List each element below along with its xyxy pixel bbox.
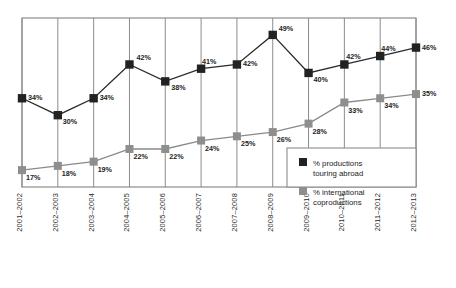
data-point-marker: [412, 90, 420, 98]
data-point-marker: [90, 158, 98, 166]
data-point-marker: [233, 60, 241, 68]
data-point-marker: [305, 120, 313, 128]
data-point-marker: [412, 43, 420, 51]
data-point-marker: [340, 99, 348, 107]
data-point-label: 44%: [381, 44, 396, 53]
x-axis-tick-label: 2006–2007: [194, 193, 203, 232]
data-point-marker: [376, 52, 384, 60]
x-axis-tick-label: 2003–2004: [87, 193, 96, 232]
data-point-marker: [197, 65, 205, 73]
data-point-label: 40%: [314, 75, 329, 84]
legend-label: touring abroad: [313, 169, 363, 178]
data-point-marker: [54, 111, 62, 119]
x-axis-tick-label: 2004–2005: [122, 193, 131, 232]
data-point-label: 34%: [100, 93, 115, 102]
x-axis-tick-label: 2008–2009: [266, 193, 275, 232]
data-point-marker: [89, 94, 97, 102]
data-point-label: 22%: [133, 152, 148, 161]
data-point-label: 26%: [277, 135, 292, 144]
x-axis-tick-label: 2011–2012: [373, 193, 382, 231]
legend-label: % productions: [313, 159, 363, 168]
legend-label: % international: [313, 188, 365, 197]
data-point-marker: [304, 69, 312, 77]
data-point-marker: [269, 31, 277, 39]
x-axis-tick-label: 2009–2010: [302, 193, 311, 232]
data-point-label: 24%: [205, 144, 220, 153]
x-axis-tick-label: 2007–2008: [230, 193, 239, 232]
data-point-marker: [376, 94, 384, 102]
data-point-label: 25%: [241, 139, 256, 148]
data-point-label: 42%: [346, 52, 361, 61]
data-point-label: 34%: [28, 93, 43, 102]
x-axis-tick-label: 2002–2003: [51, 193, 60, 232]
data-point-label: 19%: [98, 165, 113, 174]
data-point-marker: [197, 137, 205, 145]
data-point-marker: [161, 77, 169, 85]
line-chart: 34%30%34%42%38%41%42%49%40%42%44%46%17%1…: [0, 0, 456, 288]
data-point-marker: [125, 145, 133, 153]
x-axis-tick-label: 2012–2013: [409, 193, 418, 232]
data-point-label: 17%: [26, 173, 41, 182]
data-point-marker: [161, 145, 169, 153]
data-point-marker: [18, 166, 26, 174]
data-point-marker: [269, 128, 277, 136]
data-point-marker: [18, 94, 26, 102]
legend-swatch: [299, 158, 307, 166]
data-point-label: 49%: [279, 24, 294, 33]
data-point-marker: [340, 60, 348, 68]
x-axis-tick-label: 2005–2006: [158, 193, 167, 232]
data-point-label: 22%: [169, 152, 184, 161]
x-axis-tick-label: 2001–2002: [15, 193, 24, 232]
data-point-label: 34%: [384, 101, 399, 110]
data-point-marker: [125, 60, 133, 68]
legend-box: [287, 148, 416, 187]
data-point-marker: [233, 132, 241, 140]
series-line: [22, 35, 416, 115]
data-point-label: 46%: [422, 43, 437, 52]
series-touring-abroad: 34%30%34%42%38%41%42%49%40%42%44%46%: [18, 24, 437, 126]
data-point-label: 33%: [348, 106, 363, 115]
data-point-label: 28%: [313, 127, 328, 136]
data-point-label: 41%: [202, 57, 217, 66]
data-point-label: 42%: [136, 53, 151, 62]
data-point-label: 35%: [422, 89, 437, 98]
data-point-label: 42%: [243, 59, 258, 68]
data-point-label: 38%: [171, 83, 186, 92]
data-point-marker: [54, 162, 62, 170]
data-point-label: 30%: [63, 117, 78, 126]
chart-canvas: 34%30%34%42%38%41%42%49%40%42%44%46%17%1…: [0, 0, 456, 288]
data-point-label: 18%: [62, 169, 77, 178]
legend-label: coproductions: [313, 198, 362, 207]
legend-swatch: [299, 187, 307, 195]
